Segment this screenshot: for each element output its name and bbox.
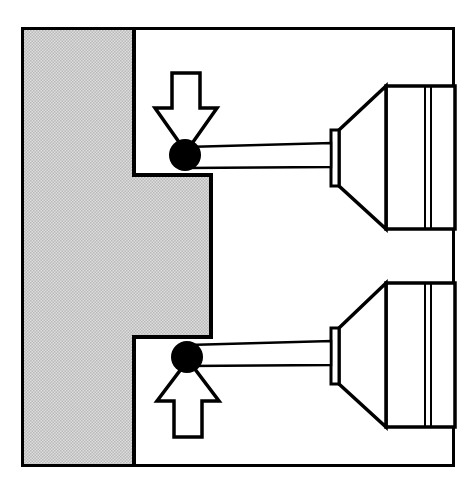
lower-stylus-ball	[171, 341, 203, 373]
lower-probe-barrel	[386, 283, 455, 427]
diagram-canvas	[0, 0, 470, 490]
upper-stylus-ball	[169, 139, 201, 171]
technical-diagram-figure: Touch-trigger probe measurement of a ste…	[0, 0, 470, 490]
upper-stylus-shaft	[186, 143, 331, 168]
lower-stylus-shaft	[188, 341, 331, 366]
upper-probe-barrel	[386, 86, 455, 229]
